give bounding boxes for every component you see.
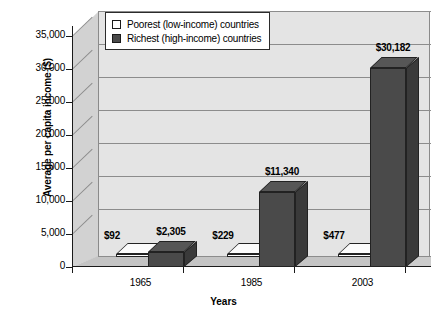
y-axis-tick-label: 5,000 bbox=[5, 227, 65, 238]
legend-swatch-richest bbox=[112, 34, 121, 43]
legend-swatch-poorest bbox=[112, 20, 121, 29]
y-axis-tick bbox=[66, 102, 73, 103]
x-axis-tick-label-1985: 1985 bbox=[217, 277, 287, 288]
bar-poorest-2003 bbox=[338, 254, 374, 257]
bar-label-richest-2003: $30,182 bbox=[360, 42, 426, 53]
bar-poorest-1965 bbox=[116, 254, 152, 257]
x-axis-tick bbox=[183, 267, 184, 273]
y-axis-tick-label: 20,000 bbox=[5, 128, 65, 139]
bar-side-face bbox=[295, 181, 308, 267]
y-axis-tick bbox=[66, 69, 73, 70]
y-axis-tick bbox=[66, 135, 73, 136]
bar-label-richest-1965: $2,305 bbox=[138, 226, 204, 237]
bar-face bbox=[148, 252, 184, 267]
y-axis-tick bbox=[66, 36, 73, 37]
bar-face bbox=[370, 68, 406, 267]
bar-richest-2003 bbox=[370, 68, 406, 267]
bar-label-poorest-1965: $92 bbox=[88, 230, 136, 241]
legend-item-poorest: Poorest (low-income) countries bbox=[112, 17, 261, 31]
y-axis-tick-label: 25,000 bbox=[5, 95, 65, 106]
x-axis-tick bbox=[405, 267, 406, 273]
y-axis-tick-label: 30,000 bbox=[5, 62, 65, 73]
chart-legend: Poorest (low-income) countries Richest (… bbox=[105, 12, 270, 50]
y-axis-tick-label: 0 bbox=[5, 260, 65, 271]
legend-label-poorest: Poorest (low-income) countries bbox=[127, 19, 259, 30]
bar-poorest-1985 bbox=[227, 254, 263, 257]
legend-item-richest: Richest (high-income) countries bbox=[112, 31, 261, 45]
bar-label-poorest-1985: $229 bbox=[199, 230, 247, 241]
bar-label-poorest-2003: $477 bbox=[310, 230, 358, 241]
y-axis-tick-label: 10,000 bbox=[5, 194, 65, 205]
x-axis-title: Years bbox=[0, 296, 447, 307]
legend-label-richest: Richest (high-income) countries bbox=[127, 33, 261, 44]
bar-face bbox=[259, 192, 295, 267]
figure-caption bbox=[0, 316, 447, 326]
chart-figure: 05,00010,00015,00020,00025,00030,00035,0… bbox=[0, 0, 447, 326]
y-axis-tick bbox=[66, 201, 73, 202]
y-axis-tick-label: 35,000 bbox=[5, 29, 65, 40]
y-axis-tick bbox=[66, 168, 73, 169]
bar-side-face bbox=[406, 57, 419, 267]
bar-label-richest-1985: $11,340 bbox=[249, 166, 315, 177]
bar-richest-1965 bbox=[148, 252, 184, 267]
bar-face bbox=[116, 254, 152, 257]
y-axis-tick bbox=[66, 234, 73, 235]
bar-face bbox=[338, 254, 374, 257]
y-axis-tick-label: 15,000 bbox=[5, 161, 65, 172]
x-axis-tick bbox=[294, 267, 295, 273]
bar-richest-1985 bbox=[259, 192, 295, 267]
y-axis-line bbox=[72, 26, 73, 267]
x-axis-tick-label-1965: 1965 bbox=[106, 277, 176, 288]
y-axis-title: Average per capita income ($) bbox=[42, 13, 53, 243]
bar-face bbox=[227, 254, 263, 257]
x-axis-tick-label-2003: 2003 bbox=[328, 277, 398, 288]
x-axis-tick bbox=[72, 267, 73, 273]
